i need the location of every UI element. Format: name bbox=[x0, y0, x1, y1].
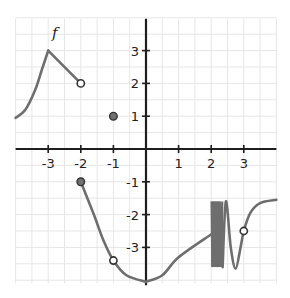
x-tick-label: -2 bbox=[74, 156, 87, 171]
y-tick-label: 2 bbox=[131, 76, 139, 91]
y-tick-label: -3 bbox=[126, 240, 139, 255]
closed-point bbox=[77, 178, 85, 186]
oscillation-band-zigzag bbox=[211, 201, 222, 267]
function-label: f bbox=[51, 24, 60, 42]
y-tick-label: -2 bbox=[126, 208, 139, 223]
x-tick-label: 1 bbox=[174, 156, 182, 171]
x-tick-label: -3 bbox=[42, 156, 55, 171]
open-point bbox=[77, 80, 84, 87]
function-graph: -3-2-1123321-1-2-3 f bbox=[0, 0, 290, 298]
y-tick-label: 1 bbox=[131, 109, 139, 124]
closed-point bbox=[110, 112, 118, 120]
y-tick-label: -1 bbox=[126, 175, 139, 190]
right-wave bbox=[223, 200, 277, 269]
open-point bbox=[240, 227, 247, 234]
open-point bbox=[110, 257, 117, 264]
x-tick-label: -1 bbox=[107, 156, 120, 171]
y-tick-label: 3 bbox=[131, 44, 139, 59]
x-tick-label: 3 bbox=[240, 156, 248, 171]
x-tick-label: 2 bbox=[207, 156, 215, 171]
